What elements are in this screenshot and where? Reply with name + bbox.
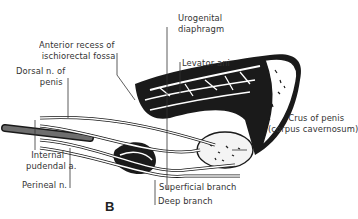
label-internal-pudendal: Internalpudendal a. bbox=[26, 149, 77, 171]
label-superficial-branch: Superficial branch bbox=[159, 181, 236, 192]
panel-label: B bbox=[105, 199, 114, 214]
label-levator-ani: Levator ani bbox=[182, 57, 230, 68]
label-urogenital-diaphragm: Urogenitaldiaphragm bbox=[178, 12, 224, 34]
label-deep-branch: Deep branch bbox=[158, 195, 213, 206]
label-dorsal-nerve: Dorsal n. ofpenis bbox=[16, 65, 65, 87]
label-perineal-nerve: Perineal n. bbox=[22, 179, 67, 190]
label-crus-of-penis: Crus of penis(corpus cavernosum) bbox=[268, 112, 358, 134]
label-anterior-recess: Anterior recess ofischiorectal fossa bbox=[39, 39, 116, 61]
